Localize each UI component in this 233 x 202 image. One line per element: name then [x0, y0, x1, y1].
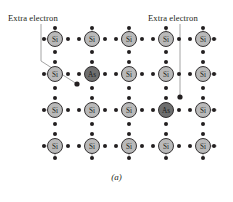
svg-text:As: As: [162, 107, 170, 115]
svg-text:Si: Si: [126, 143, 132, 151]
atom-si-r1c3: Si: [122, 32, 137, 47]
atom-si-r3c1: Si: [48, 103, 63, 118]
svg-text:Si: Si: [200, 71, 206, 79]
svg-text:Si: Si: [200, 107, 206, 115]
svg-text:Si: Si: [126, 36, 132, 44]
atom-si-r2c4: Si: [159, 67, 174, 82]
atom-row-2: Si As Si Si Si: [48, 67, 211, 82]
svg-text:Si: Si: [126, 71, 132, 79]
svg-text:Si: Si: [52, 71, 58, 79]
atom-si-r1c4: Si: [159, 32, 174, 47]
leader-lines: [41, 24, 180, 97]
semiconductor-lattice-figure: Extra electron Extra electron: [0, 0, 233, 202]
svg-text:Si: Si: [52, 36, 58, 44]
atom-as-r3c4: As: [159, 103, 174, 118]
svg-text:Si: Si: [89, 143, 95, 151]
atom-si-r2c5: Si: [196, 67, 211, 82]
atom-si-r1c1: Si: [48, 32, 63, 47]
atom-row-3: Si Si Si As Si: [48, 103, 211, 118]
atom-si-r2c1: Si: [48, 67, 63, 82]
atom-si-r4c3: Si: [122, 139, 137, 154]
atom-si-r1c2: Si: [85, 32, 100, 47]
atom-si-r1c5: Si: [196, 32, 211, 47]
svg-text:Si: Si: [52, 107, 58, 115]
atom-si-r4c1: Si: [48, 139, 63, 154]
atom-as-r2c2: As: [85, 67, 100, 82]
atom-si-r3c5: Si: [196, 103, 211, 118]
atom-si-r2c3: Si: [122, 67, 137, 82]
svg-text:Si: Si: [163, 143, 169, 151]
atom-si-r4c4: Si: [159, 139, 174, 154]
atom-si-r3c3: Si: [122, 103, 137, 118]
svg-text:Si: Si: [200, 143, 206, 151]
svg-text:Si: Si: [163, 71, 169, 79]
atom-row-1: Si Si Si Si Si: [48, 32, 211, 47]
atom-si-r4c2: Si: [85, 139, 100, 154]
svg-text:Si: Si: [200, 36, 206, 44]
atom-row-4: Si Si Si Si Si: [48, 139, 211, 154]
free-electron-left: [74, 81, 79, 86]
svg-text:As: As: [88, 71, 96, 79]
figure-caption: (a): [0, 172, 233, 182]
svg-text:Si: Si: [89, 107, 95, 115]
svg-text:Si: Si: [126, 107, 132, 115]
atom-si-r3c2: Si: [85, 103, 100, 118]
svg-text:Si: Si: [52, 143, 58, 151]
atom-si-r4c5: Si: [196, 139, 211, 154]
free-electron-right: [177, 94, 182, 99]
svg-text:Si: Si: [163, 36, 169, 44]
svg-text:Si: Si: [89, 36, 95, 44]
